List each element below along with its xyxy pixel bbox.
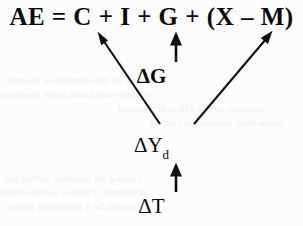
node-delta-g: ΔG <box>0 64 303 89</box>
node-delta-yd-subscript: d <box>163 147 170 162</box>
arrow-layer <box>0 0 303 226</box>
node-delta-yd-symbol: ΔY <box>134 133 163 157</box>
arrow-delta-g-to-government-spending <box>170 32 182 63</box>
scanned-diagram-page: some of the increase in income will be s… <box>0 0 303 226</box>
arrow-delta-t-to-delta-yd <box>170 163 182 193</box>
node-delta-t: ΔT <box>0 194 303 219</box>
node-delta-yd: ΔYd <box>0 133 303 161</box>
